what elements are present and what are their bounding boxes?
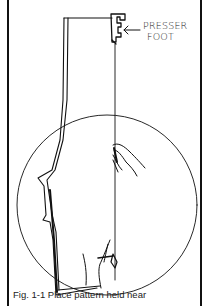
right-hand: [113, 144, 145, 176]
label-line-1: PRESSER: [143, 20, 187, 31]
label-line-2: FOOT: [143, 31, 203, 42]
fabric-piece: [38, 18, 112, 295]
figure-caption: Fig. 1-1 Place pattern held near: [13, 289, 203, 300]
presser-foot-label: PRESSER FOOT: [143, 20, 203, 42]
arrow-icon: [124, 26, 140, 34]
circle-background: [17, 115, 197, 295]
left-hand: [83, 240, 117, 288]
presser-foot-icon: [111, 14, 125, 44]
